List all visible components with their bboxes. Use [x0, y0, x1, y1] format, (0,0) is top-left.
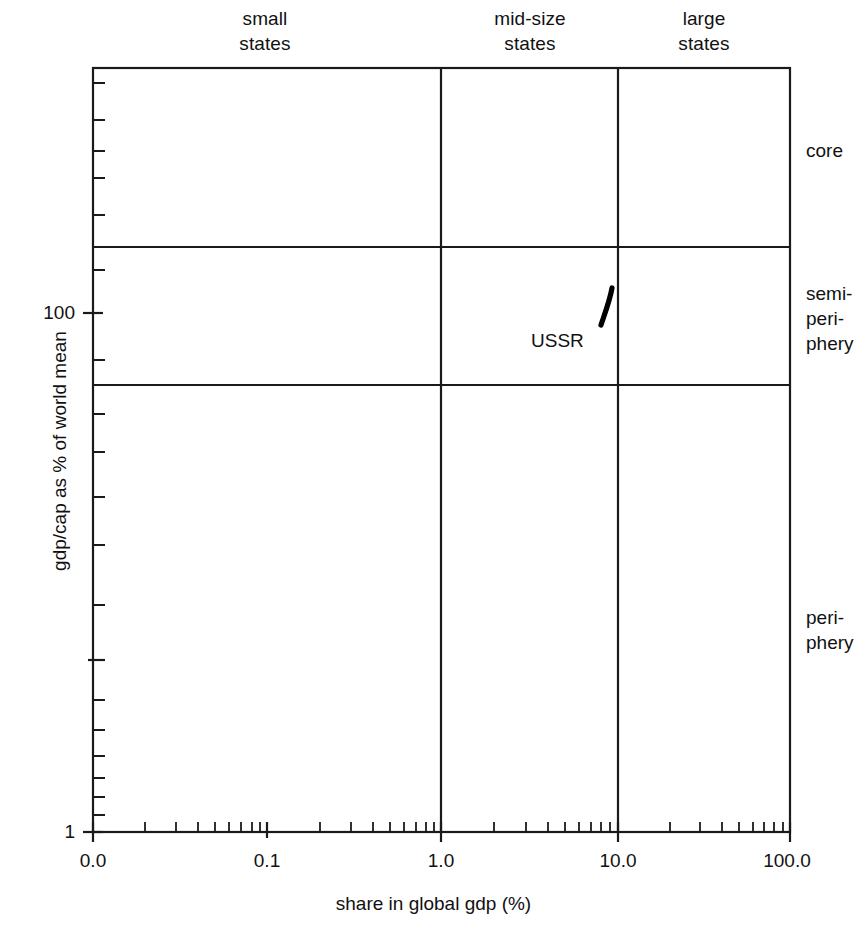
- x-tick-label-4: 100.0: [763, 850, 811, 872]
- x-axis-title: share in global gdp (%): [0, 893, 867, 915]
- x-tick-label-1: 0.1: [254, 850, 280, 872]
- series-ussr: [601, 288, 612, 325]
- y-axis-title: gdp/cap as % of world mean: [49, 231, 71, 671]
- plot-canvas: [0, 0, 867, 930]
- chart-figure: small states mid-size states large state…: [0, 0, 867, 930]
- x-tick-label-0: 0.0: [80, 850, 106, 872]
- zone-label-periphery: peri- phery: [806, 605, 854, 655]
- y-tick-label-1: 1: [20, 821, 75, 843]
- annotation-ussr: USSR: [531, 330, 584, 352]
- zone-label-semi-periphery: semi- peri- phery: [806, 281, 854, 356]
- x-tick-label-3: 10.0: [600, 850, 637, 872]
- zone-label-core: core: [806, 138, 843, 163]
- ussr-trajectory-path: [601, 288, 612, 325]
- band-divider-vertical-group: [441, 68, 618, 832]
- x-tick-label-2: 1.0: [428, 850, 454, 872]
